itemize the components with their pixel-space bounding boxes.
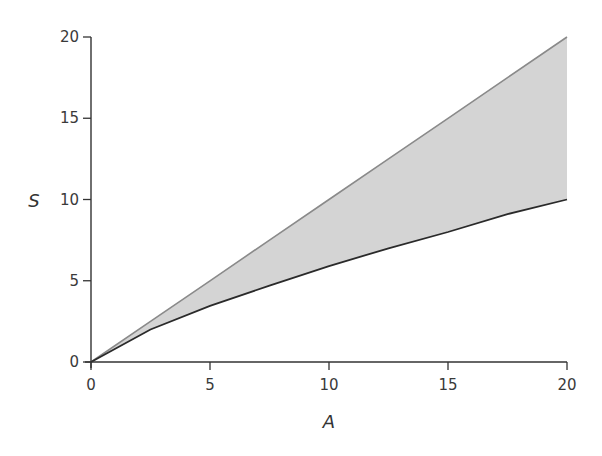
y-tick-label: 10 <box>60 191 79 209</box>
x-tick-label: 0 <box>86 376 96 394</box>
y-tick-label: 0 <box>69 353 79 371</box>
x-tick-label: 10 <box>319 376 338 394</box>
y-axis-label: S <box>28 190 39 211</box>
x-tick-label: 15 <box>438 376 457 394</box>
y-tick-label: 5 <box>69 272 79 290</box>
x-axis-label: A <box>322 411 335 432</box>
x-tick-label: 20 <box>557 376 576 394</box>
y-tick-label: 20 <box>60 28 79 46</box>
chart: 0510152005101520AS <box>0 0 602 456</box>
y-tick-label: 15 <box>60 109 79 127</box>
x-tick-label: 5 <box>205 376 215 394</box>
